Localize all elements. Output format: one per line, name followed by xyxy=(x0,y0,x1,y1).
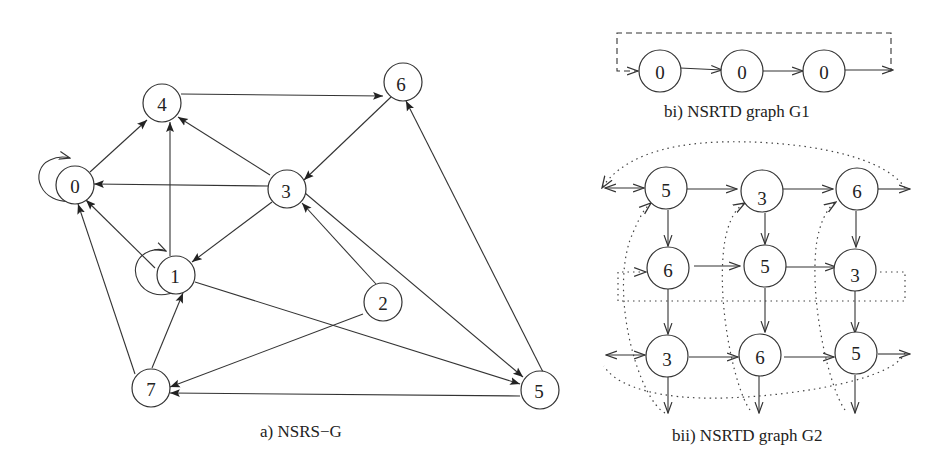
g1-node-2: 0 xyxy=(721,50,763,92)
svg-text:5: 5 xyxy=(760,256,770,277)
g1-node-3: 0 xyxy=(803,50,845,92)
edge-5-to-6 xyxy=(406,101,543,372)
g2-node-r3c3: 5 xyxy=(835,332,877,374)
node-4: 4 xyxy=(143,84,181,122)
g2-node-r3c1: 3 xyxy=(646,335,688,377)
g2-node-r2c3: 3 xyxy=(834,249,876,291)
svg-text:2: 2 xyxy=(378,293,388,314)
svg-text:5: 5 xyxy=(534,381,544,402)
g1-edge-1-to-2 xyxy=(680,68,722,70)
svg-text:3: 3 xyxy=(757,188,767,209)
node-1: 1 xyxy=(157,256,195,294)
g2-node-r1c1: 5 xyxy=(645,167,687,209)
panel-a-nsrs-g: 0 4 6 3 1 2 7 5 a) NSRS−G xyxy=(39,63,559,441)
figure-canvas: 0 4 6 3 1 2 7 5 a) NSRS−G 0 0 0 bi) NSRT… xyxy=(0,0,951,470)
svg-text:1: 1 xyxy=(170,266,180,287)
svg-text:3: 3 xyxy=(281,181,291,202)
node-0: 0 xyxy=(56,166,94,204)
edge-3-to-0 xyxy=(94,184,268,186)
svg-text:7: 7 xyxy=(146,379,156,400)
edge-6-to-3 xyxy=(304,97,391,180)
panel-bi-g1: 0 0 0 bi) NSRTD graph G1 xyxy=(617,33,893,121)
g2-vertical-edges xyxy=(668,210,856,413)
panel-a-nodes: 0 4 6 3 1 2 7 5 xyxy=(56,63,559,409)
g2-node-r3c2: 6 xyxy=(739,334,781,376)
edge-7-to-1 xyxy=(152,293,183,368)
g2-node-r2c2: 5 xyxy=(744,245,786,287)
svg-text:5: 5 xyxy=(661,180,671,201)
g2-nodes: 5 3 6 6 5 3 3 6 5 xyxy=(645,167,878,377)
edge-3-to-4 xyxy=(178,117,270,175)
g2-node-r1c3: 6 xyxy=(836,168,878,210)
svg-text:6: 6 xyxy=(663,260,673,281)
edge-4-to-6 xyxy=(181,94,383,96)
svg-text:0: 0 xyxy=(819,62,829,83)
g2-node-r1c2: 3 xyxy=(741,170,783,212)
svg-text:6: 6 xyxy=(396,74,406,95)
node-3: 3 xyxy=(268,170,306,208)
svg-text:6: 6 xyxy=(755,347,765,368)
svg-text:5: 5 xyxy=(851,343,861,364)
panel-bii-g2: 5 3 6 6 5 3 3 6 5 bii) NSRTD graph G2 xyxy=(602,142,910,445)
edge-2-to-7 xyxy=(170,314,363,387)
svg-text:0: 0 xyxy=(655,62,665,83)
caption-panel-bi: bi) NSRTD graph G1 xyxy=(664,102,810,121)
g2-wrap-col2 xyxy=(722,203,750,410)
node-6: 6 xyxy=(384,63,422,101)
svg-text:0: 0 xyxy=(70,176,80,197)
svg-text:0: 0 xyxy=(737,62,747,83)
svg-text:3: 3 xyxy=(662,349,672,370)
edge-0-to-4 xyxy=(90,120,147,172)
node-7: 7 xyxy=(132,369,170,407)
edge-3-to-5 xyxy=(305,193,523,377)
svg-text:6: 6 xyxy=(852,181,862,202)
g1-node-1: 0 xyxy=(639,50,681,92)
edge-5-to-7 xyxy=(170,393,520,396)
g2-wrap-col1 xyxy=(623,203,665,413)
edge-7-to-0 xyxy=(78,204,135,374)
node-2: 2 xyxy=(364,283,402,321)
svg-text:4: 4 xyxy=(157,94,167,115)
caption-panel-a: a) NSRS−G xyxy=(260,422,342,441)
caption-panel-bii: bii) NSRTD graph G2 xyxy=(672,426,823,445)
g2-node-r2c1: 6 xyxy=(647,247,689,289)
edge-3-to-1 xyxy=(192,202,272,262)
g2-wrap-col3 xyxy=(815,202,845,410)
svg-text:3: 3 xyxy=(850,265,860,286)
panel-a-edges xyxy=(39,94,543,396)
node-5: 5 xyxy=(521,371,559,409)
